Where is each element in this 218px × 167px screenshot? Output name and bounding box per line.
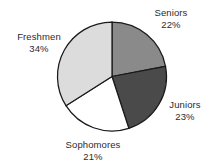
pie-label-juniors: Juniors 23% — [154, 99, 216, 122]
pie-label-sophomores: Sophomores 21% — [48, 139, 138, 162]
pie-chart: Seniors 22% Juniors 23% Sophomores 21% F… — [0, 0, 218, 167]
pie-label-freshmen-name: Freshmen — [5, 31, 73, 43]
pie-label-sophomores-value: 21% — [48, 151, 138, 163]
pie-slice-group — [57, 22, 166, 131]
pie-label-juniors-name: Juniors — [154, 99, 216, 111]
pie-label-seniors-value: 22% — [140, 19, 202, 31]
pie-label-freshmen-value: 34% — [5, 43, 73, 55]
pie-label-freshmen: Freshmen 34% — [5, 31, 73, 54]
pie-label-juniors-value: 23% — [154, 111, 216, 123]
pie-label-seniors-name: Seniors — [140, 7, 202, 19]
pie-label-seniors: Seniors 22% — [140, 7, 202, 30]
pie-label-sophomores-name: Sophomores — [48, 139, 138, 151]
